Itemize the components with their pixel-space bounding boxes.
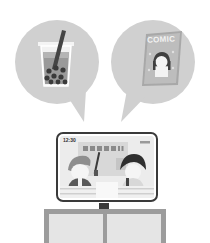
cabinet-drawer-right bbox=[107, 214, 161, 243]
comic-title-text: COMIC bbox=[147, 34, 177, 45]
bubble-tea-icon bbox=[36, 30, 76, 88]
cabinet-drawer-left bbox=[49, 214, 103, 243]
tv-cabinet bbox=[44, 209, 166, 243]
illustration: COMIC bbox=[0, 0, 210, 243]
tv-clock: 12:30 bbox=[63, 137, 76, 143]
